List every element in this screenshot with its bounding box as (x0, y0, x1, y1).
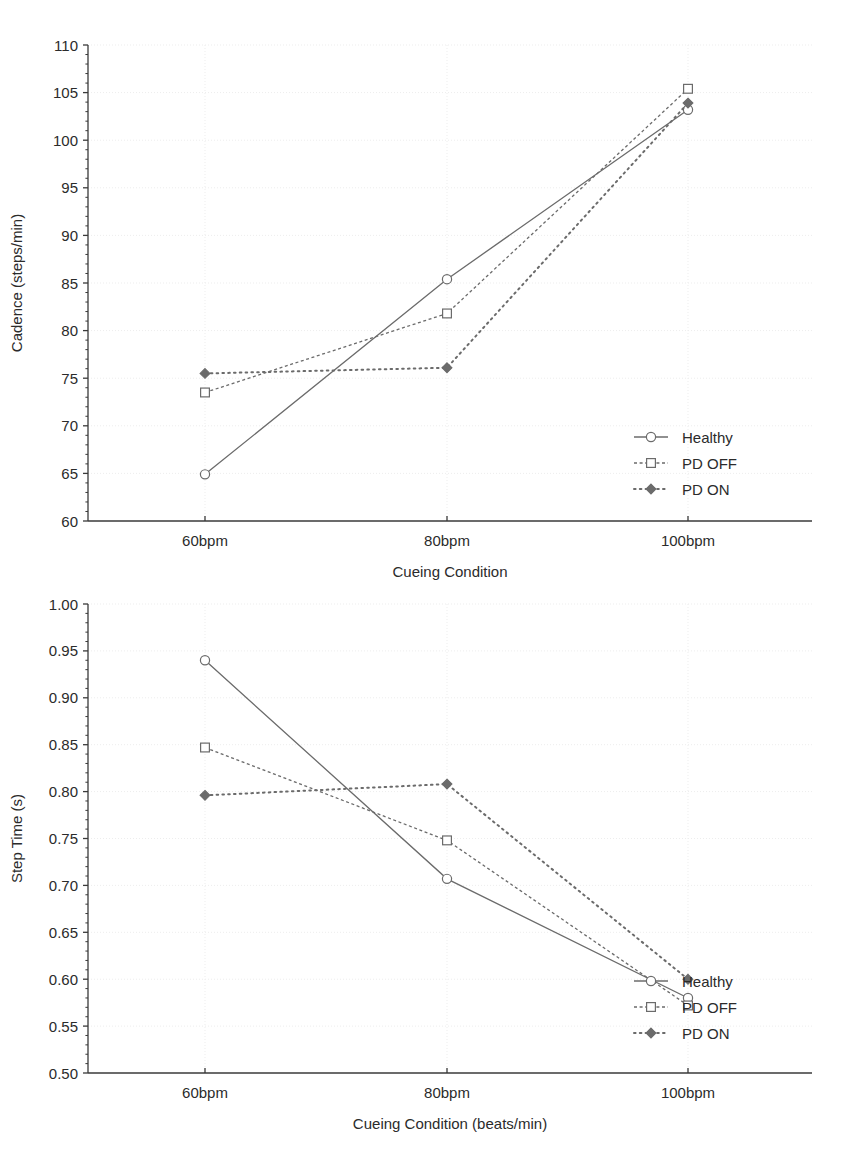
tick-labels: 606570758085909510010511060bpm80bpm100bp… (53, 37, 715, 550)
series-line-pd-on (205, 103, 688, 373)
marker-filled-diamond-legend-2 (646, 1028, 656, 1038)
x-axis-tick-label: 100bpm (661, 1084, 715, 1101)
y-axis-tick-label: 0.80 (49, 783, 78, 800)
step-time-plot-area: 0.500.550.600.650.700.750.800.850.900.95… (0, 580, 844, 1159)
legend-item-pd-off[interactable]: PD OFF (634, 999, 737, 1016)
x-axis-title: Cueing Condition (beats/min) (353, 1115, 547, 1132)
y-axis-tick-label: 70 (61, 417, 78, 434)
y-axis-tick-label: 0.95 (49, 642, 78, 659)
y-axis-tick-label: 65 (61, 465, 78, 482)
marker-open-circle-healthy-1 (442, 874, 451, 883)
x-axis-tick-label: 100bpm (661, 532, 715, 549)
legend: HealthyPD OFFPD ON (634, 973, 737, 1042)
y-axis-tick-label: 0.90 (49, 689, 78, 706)
legend: HealthyPD OFFPD ON (634, 429, 737, 498)
legend-label: PD OFF (682, 999, 737, 1016)
cadence-chart: 606570758085909510010511060bpm80bpm100bp… (0, 0, 844, 580)
legend-item-healthy[interactable]: Healthy (634, 429, 733, 446)
y-axis-tick-label: 95 (61, 179, 78, 196)
axis-titles: Cueing ConditionCadence (steps/min) (8, 214, 508, 580)
y-axis-tick-label: 0.60 (49, 971, 78, 988)
y-axis-title: Cadence (steps/min) (8, 214, 25, 352)
series-healthy (200, 105, 692, 479)
y-axis-tick-label: 85 (61, 275, 78, 292)
legend-item-pd-on[interactable]: PD ON (634, 1025, 730, 1042)
marker-open-circle-healthy-0 (200, 656, 209, 665)
marker-open-square-legend-1 (647, 1003, 656, 1012)
x-axis-tick-label: 60bpm (182, 532, 228, 549)
marker-open-square-pd-off-0 (201, 743, 210, 752)
marker-open-circle-healthy-1 (442, 275, 451, 284)
marker-filled-diamond-pd-on-1 (442, 363, 452, 373)
y-axis-tick-label: 0.85 (49, 736, 78, 753)
y-axis-tick-label: 0.50 (49, 1065, 78, 1082)
step-time-chart: 0.500.550.600.650.700.750.800.850.900.95… (0, 580, 844, 1159)
legend-label: PD ON (682, 1025, 730, 1042)
legend-item-pd-off[interactable]: PD OFF (634, 455, 737, 472)
y-axis-tick-label: 0.70 (49, 877, 78, 894)
marker-filled-diamond-legend-2 (646, 484, 656, 494)
marker-open-square-pd-off-0 (201, 388, 210, 397)
legend-label: PD ON (682, 481, 730, 498)
legend-item-healthy[interactable]: Healthy (634, 973, 733, 990)
x-axis-tick-label: 80bpm (424, 532, 470, 549)
y-axis-tick-label: 110 (54, 37, 78, 54)
y-axis-tick-label: 1.00 (49, 596, 78, 613)
marker-open-circle-legend-0 (646, 976, 655, 985)
marker-open-square-pd-off-1 (443, 836, 452, 845)
y-axis-tick-label: 105 (53, 84, 78, 101)
marker-filled-diamond-pd-on-0 (200, 369, 210, 379)
legend-label: Healthy (682, 429, 733, 446)
y-axis-tick-label: 90 (61, 227, 78, 244)
cadence-plot-area: 606570758085909510010511060bpm80bpm100bp… (0, 0, 844, 580)
marker-open-square-pd-off-2 (684, 84, 693, 93)
tick-labels: 0.500.550.600.650.700.750.800.850.900.95… (49, 596, 715, 1102)
legend-label: PD OFF (682, 455, 737, 472)
y-axis-tick-label: 60 (61, 513, 78, 530)
marker-open-circle-healthy-0 (200, 470, 209, 479)
y-axis-tick-label: 100 (53, 132, 78, 149)
axis-titles: Cueing Condition (beats/min)Step Time (s… (8, 794, 547, 1132)
legend-label: Healthy (682, 973, 733, 990)
y-axis-tick-label: 75 (61, 370, 78, 387)
x-axis-tick-label: 60bpm (182, 1084, 228, 1101)
marker-open-square-legend-1 (647, 459, 656, 468)
marker-filled-diamond-pd-on-1 (442, 779, 452, 789)
legend-item-pd-on[interactable]: PD ON (634, 481, 730, 498)
marker-open-square-pd-off-1 (443, 309, 452, 318)
y-axis-tick-label: 0.65 (49, 924, 78, 941)
x-axis-tick-label: 80bpm (424, 1084, 470, 1101)
y-axis-tick-label: 0.55 (49, 1018, 78, 1035)
y-axis-title: Step Time (s) (8, 794, 25, 883)
series-line-healthy (205, 110, 688, 475)
y-axis-tick-label: 0.75 (49, 830, 78, 847)
x-axis-title: Cueing Condition (392, 563, 507, 580)
marker-open-circle-legend-0 (646, 432, 655, 441)
y-axis-tick-label: 80 (61, 322, 78, 339)
